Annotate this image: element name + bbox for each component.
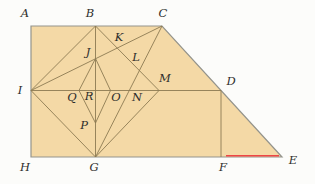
point-label-H: H (19, 160, 31, 174)
point-label-A: A (20, 6, 29, 20)
point-label-L: L (131, 50, 140, 64)
point-label-D: D (225, 74, 235, 88)
point-label-B: B (85, 6, 94, 20)
point-label-E: E (288, 153, 298, 167)
diagram-stage: ABCDEFGHIJKLMNOPQR (0, 0, 315, 184)
point-label-F: F (218, 160, 228, 174)
point-label-C: C (159, 6, 168, 20)
point-label-P: P (79, 118, 88, 132)
point-label-G: G (89, 160, 98, 174)
point-label-O: O (111, 90, 121, 104)
point-label-K: K (114, 30, 125, 44)
point-label-N: N (131, 90, 143, 104)
point-label-Q: Q (67, 90, 77, 104)
point-label-I: I (17, 83, 23, 97)
point-label-R: R (84, 89, 94, 103)
point-label-M: M (158, 71, 172, 85)
geometry-figure: ABCDEFGHIJKLMNOPQR (0, 0, 315, 184)
